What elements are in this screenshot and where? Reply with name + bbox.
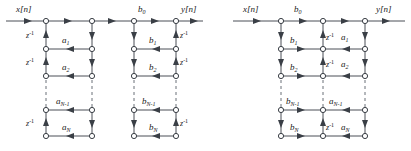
node <box>131 133 136 138</box>
node <box>43 46 48 51</box>
node <box>320 133 325 138</box>
node <box>89 18 94 23</box>
node <box>173 133 178 138</box>
left-output-label: y[n] <box>180 4 197 14</box>
node <box>89 133 94 138</box>
node <box>278 46 283 51</box>
node <box>43 18 48 23</box>
left-coef-aN1: aN-1 <box>56 96 70 107</box>
node <box>173 18 178 23</box>
node <box>131 73 136 78</box>
node <box>131 46 136 51</box>
node <box>320 46 325 51</box>
left-coef-bN1: bN-1 <box>142 96 156 107</box>
right-b0-label: b0 <box>294 4 302 15</box>
node <box>89 46 94 51</box>
left-coef-b2: b2 <box>149 62 157 73</box>
right-b-rungs-arrows <box>297 46 305 139</box>
node <box>362 73 367 78</box>
right-coef-b1: b1 <box>290 35 298 46</box>
right-delay-label-2: z-1 <box>325 59 334 69</box>
node <box>43 73 48 78</box>
node <box>278 107 283 112</box>
right-delay-label-1: z-1 <box>325 32 334 42</box>
node <box>320 73 325 78</box>
figure-canvas: x[n] b0 y[n] z-1 z-1 z-1 a1 a2 aN-1 aN b… <box>0 0 411 151</box>
left-coef-a2: a2 <box>62 62 70 73</box>
left-a-rungs-wire <box>46 49 92 136</box>
node <box>320 18 325 23</box>
left-b-rungs-wire <box>134 49 176 136</box>
node <box>89 73 94 78</box>
right-coef-aN: aN <box>341 122 351 133</box>
left-input-label: x[n] <box>15 4 32 14</box>
left-delay-label-3: z-1 <box>25 118 34 128</box>
left-coef-bN: bN <box>149 122 159 133</box>
right-coef-aN1: aN-1 <box>329 96 343 107</box>
node <box>173 73 178 78</box>
node <box>89 107 94 112</box>
node <box>278 73 283 78</box>
right-coef-bN: bN <box>290 122 300 133</box>
right-coef-b2: b2 <box>290 62 298 73</box>
node <box>320 107 325 112</box>
node <box>173 107 178 112</box>
node <box>278 18 283 23</box>
node <box>131 18 136 23</box>
left-a-rungs-arrows <box>66 46 74 139</box>
left-coef-aN: aN <box>62 122 72 133</box>
node <box>362 133 367 138</box>
node <box>362 18 367 23</box>
node <box>43 107 48 112</box>
node <box>131 107 136 112</box>
left-delay-label-5: z-1 <box>179 57 188 67</box>
node <box>173 46 178 51</box>
right-coef-a1: a1 <box>341 32 349 43</box>
left-delay-label-6: z-1 <box>179 118 188 128</box>
node <box>362 107 367 112</box>
left-coef-a1: a1 <box>62 35 70 46</box>
left-delay-label-4: z-1 <box>179 30 188 40</box>
right-output-label: y[n] <box>375 4 392 14</box>
left-coef-b1: b1 <box>149 35 157 46</box>
right-coef-bN1: bN-1 <box>286 96 300 107</box>
right-coef-a2: a2 <box>341 59 349 70</box>
node <box>43 133 48 138</box>
left-b0-label: b0 <box>138 4 146 15</box>
signal-flow-graph-figure: x[n] b0 y[n] z-1 z-1 z-1 a1 a2 aN-1 aN b… <box>0 0 411 151</box>
node <box>362 46 367 51</box>
left-delay-label-2: z-1 <box>25 57 34 67</box>
right-b-rungs-wire <box>281 49 323 136</box>
left-delay-label-1: z-1 <box>25 30 34 40</box>
right-input-label: x[n] <box>242 4 259 14</box>
right-delay-label-3: z-1 <box>325 122 334 132</box>
node <box>278 133 283 138</box>
